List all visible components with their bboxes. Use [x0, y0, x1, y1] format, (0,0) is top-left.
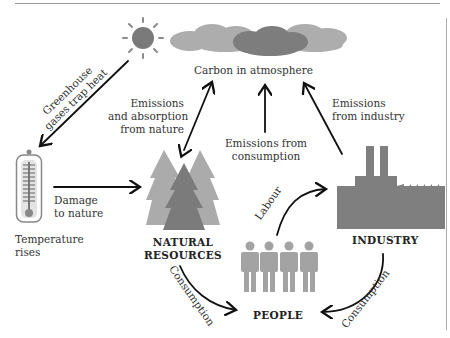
arrow-nature-atmosphere — [184, 82, 212, 150]
node-industry: INDUSTRY — [352, 234, 418, 247]
label-damage: Damage to nature — [54, 194, 103, 220]
arrow-labour — [277, 189, 326, 235]
node-carbon-atmosphere: Carbon in atmosphere — [194, 64, 313, 77]
node-natural-resources: NATURAL RESOURCES — [143, 236, 223, 262]
arrows — [0, 0, 450, 338]
label-emissions-industry: Emissions from industry — [332, 97, 405, 123]
label-emissions-consumption: Emissions from consumption — [216, 137, 316, 163]
node-people: PEOPLE — [253, 309, 303, 322]
node-temperature: Temperature rises — [15, 233, 84, 259]
label-emissions-nature: Emissions and absorption from nature — [108, 97, 184, 136]
